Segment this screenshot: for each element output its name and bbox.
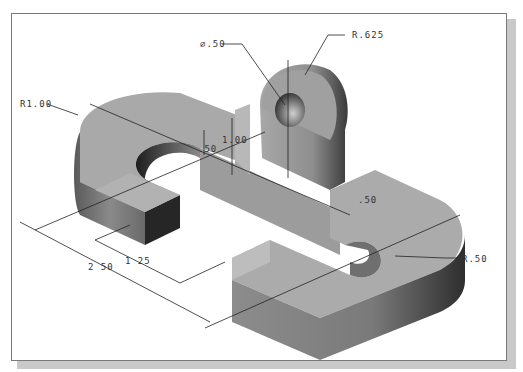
dim-boss-radius: R.625 (352, 30, 384, 40)
dim-hole-diameter: ∅.50 (200, 39, 226, 49)
dim-step-height: .50 (198, 144, 217, 154)
dim-width-overall: 2 50 (88, 262, 114, 272)
dim-outer-radius-left: R1.00 (20, 99, 52, 109)
dim-total-height: 1.00 (222, 135, 248, 145)
boss-hole (275, 93, 305, 127)
dim-inner-radius-right: R.50 (462, 254, 488, 264)
dim-width-small: 1 25 (125, 256, 151, 266)
dim-slot-width: .50 (358, 195, 377, 205)
isometric-part-drawing: ∅.50 R.625 R1.00 .50 1.00 .50 R.50 1 25 … (0, 0, 523, 372)
